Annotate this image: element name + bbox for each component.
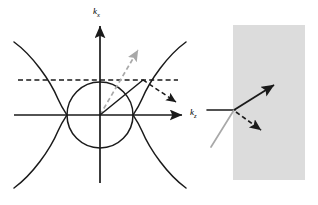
axis-label-kx-sub: x [97,11,100,18]
figure-root: kx kz [0,0,318,205]
axis-label-kx: kx [93,7,100,18]
refracted-wavevector [143,80,176,102]
axis-label-kz: kz [190,108,197,119]
incident-gray-ray [211,110,234,147]
figure-canvas [0,0,318,205]
axis-label-kz-sub: z [194,112,197,119]
anisotropic-slab [233,25,305,180]
